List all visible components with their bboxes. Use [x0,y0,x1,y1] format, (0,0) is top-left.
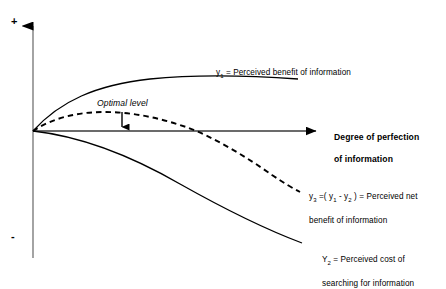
axis-negative-marker: - [11,231,15,242]
label-cost-line1: = Perceived cost of [331,255,405,264]
curve-perceived-cost [33,131,302,243]
label-net-line2: benefit of information [309,216,387,225]
label-x-axis-line1: Degree of perfection [334,132,419,142]
axis-positive-marker: + [11,16,18,27]
label-optimal-level: Optimal level [97,98,148,108]
label-net-open: =( y [317,192,334,201]
label-x-axis: Degree of perfection of information [334,121,419,165]
label-perceived-benefit: y1 = Perceived benefit of information [216,58,351,81]
label-perceived-net-benefit: y3 =( y1 - y2 ) = Perceived net benefit … [309,182,418,226]
label-x-axis-line2: of information [334,154,393,164]
label-net-minus: - y [337,192,349,201]
curve-perceived-net-benefit [33,112,300,192]
label-net-close: ) = Perceived net [352,192,418,201]
label-cost-line2: searching for information [322,279,414,288]
curve-perceived-benefit [33,76,298,131]
label-benefit-text: = Perceived benefit of information [224,68,351,77]
label-perceived-cost: Y2 = Perceived cost of searching for inf… [322,245,414,289]
